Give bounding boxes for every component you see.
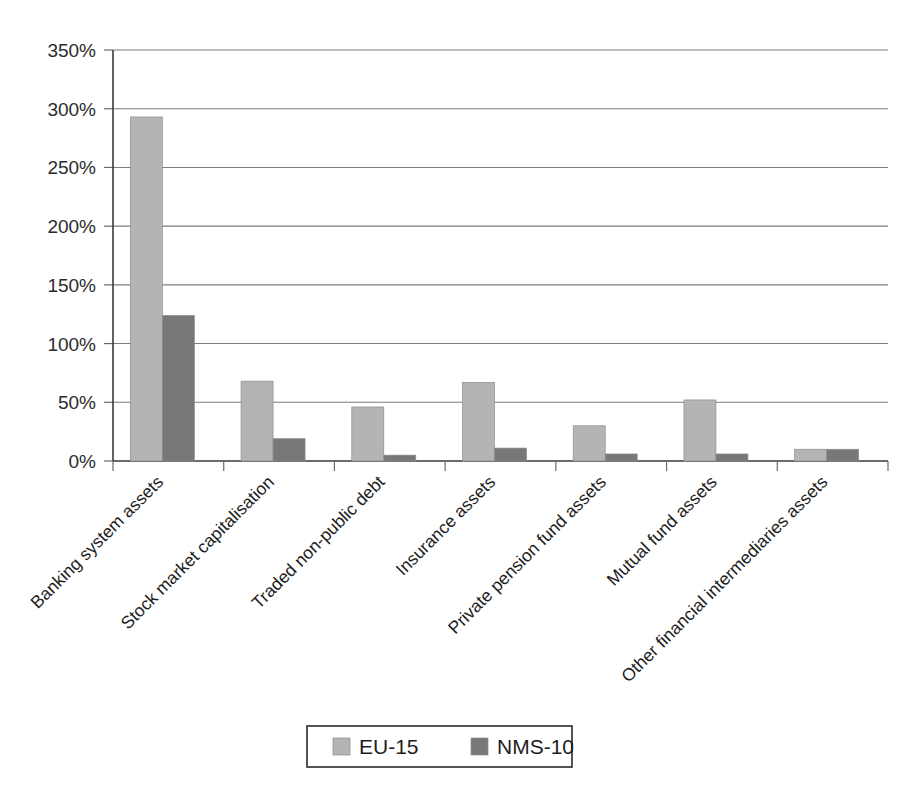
y-tick-label: 200%: [47, 216, 96, 237]
legend-swatch: [471, 738, 488, 755]
bar[interactable]: [495, 448, 527, 461]
bar[interactable]: [573, 426, 605, 461]
y-tick-label: 50%: [58, 392, 96, 413]
y-tick-label: 250%: [47, 157, 96, 178]
bar[interactable]: [130, 117, 162, 461]
bar[interactable]: [716, 454, 748, 461]
bar[interactable]: [795, 449, 827, 461]
y-tick-label: 300%: [47, 99, 96, 120]
legend-label: NMS-10: [497, 735, 574, 758]
y-tick-label: 0%: [69, 451, 97, 472]
bar[interactable]: [827, 449, 859, 461]
y-tick-label: 100%: [47, 334, 96, 355]
y-tick-label: 150%: [47, 275, 96, 296]
grouped-bar-chart: 0%50%100%150%200%250%300%350% Banking sy…: [0, 0, 898, 791]
bar[interactable]: [273, 439, 305, 461]
bar[interactable]: [684, 400, 716, 461]
chart-legend[interactable]: EU-15NMS-10: [307, 726, 574, 767]
legend-label: EU-15: [359, 735, 419, 758]
bar[interactable]: [384, 455, 416, 461]
y-tick-label: 350%: [47, 40, 96, 61]
bar[interactable]: [162, 315, 194, 461]
bar[interactable]: [463, 382, 495, 461]
bar[interactable]: [241, 381, 273, 461]
bar[interactable]: [605, 454, 637, 461]
bar[interactable]: [352, 407, 384, 461]
chart-figure: 0%50%100%150%200%250%300%350% Banking sy…: [0, 0, 898, 791]
legend-swatch: [333, 738, 350, 755]
